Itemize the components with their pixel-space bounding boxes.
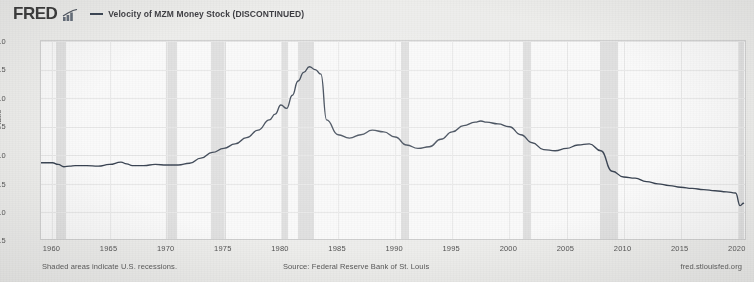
- plot-area[interactable]: [40, 40, 746, 240]
- series-line-velocity-mzm: [41, 41, 745, 239]
- y-tick-label: 4.0: [0, 37, 6, 46]
- x-tick-label: 2020: [720, 244, 754, 253]
- x-tick-label: 2010: [606, 244, 640, 253]
- x-tick-label: 1990: [377, 244, 411, 253]
- y-tick-label: 2.5: [0, 122, 6, 131]
- legend-color-swatch: [90, 13, 103, 15]
- x-tick-label: 1980: [263, 244, 297, 253]
- chart-legend[interactable]: Velocity of MZM Money Stock (DISCONTINUE…: [90, 9, 304, 19]
- x-tick-label: 1965: [92, 244, 126, 253]
- y-tick-label: 3.0: [0, 94, 6, 103]
- y-tick-label: 0.5: [0, 236, 6, 245]
- y-tick-label: 1.5: [0, 180, 6, 189]
- x-tick-label: 2015: [663, 244, 697, 253]
- source-note: Source: Federal Reserve Bank of St. Loui…: [283, 262, 429, 271]
- fred-chart-screenshot: FRED Velocity of MZM Money Stock (DISCON…: [0, 0, 754, 282]
- x-tick-label: 1960: [34, 244, 68, 253]
- y-tick-label: 1.0: [0, 208, 6, 217]
- x-tick-label: 2000: [491, 244, 525, 253]
- fred-logo[interactable]: FRED: [13, 5, 57, 22]
- y-tick-label: 2.0: [0, 151, 6, 160]
- plot-inner: [41, 41, 745, 239]
- y-tick-label: 3.5: [0, 65, 6, 74]
- x-tick-label: 1985: [320, 244, 354, 253]
- x-tick-label: 1995: [434, 244, 468, 253]
- chart-footer: Shaded areas indicate U.S. recessions. S…: [0, 262, 754, 278]
- chart-header: FRED Velocity of MZM Money Stock (DISCON…: [0, 0, 754, 27]
- legend-label: Velocity of MZM Money Stock (DISCONTINUE…: [108, 9, 304, 19]
- x-tick-label: 2005: [549, 244, 583, 253]
- fred-url[interactable]: fred.stlouisfed.org: [680, 262, 742, 271]
- x-tick-label: 1975: [206, 244, 240, 253]
- mini-bar-chart-icon: [62, 8, 78, 21]
- x-tick-label: 1970: [149, 244, 183, 253]
- recession-note: Shaded areas indicate U.S. recessions.: [42, 262, 177, 271]
